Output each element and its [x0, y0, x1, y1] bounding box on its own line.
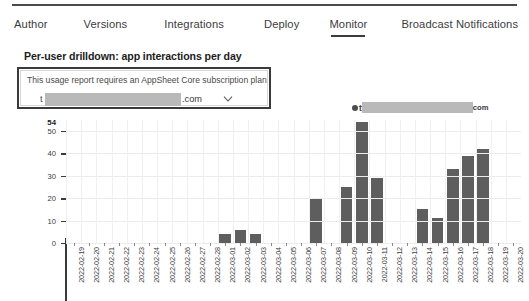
subscription-notice-text: This usage report requires an AppSheet C… [27, 75, 267, 85]
tab-label: Deploy [264, 18, 299, 30]
chart-bar[interactable] [250, 234, 262, 243]
x-gridline [400, 120, 401, 243]
legend-label-suffix: com [473, 103, 489, 112]
chart-bar[interactable] [219, 234, 231, 243]
tab-label: Author [14, 18, 48, 30]
x-tick-mark [498, 243, 499, 246]
chart-bar[interactable] [417, 209, 429, 243]
x-tick-label: 2022-03-14 [425, 247, 434, 283]
x-tick-mark [483, 243, 484, 246]
x-gridline [127, 120, 128, 243]
x-tick-label: 2022-03-02 [243, 247, 252, 283]
x-gridline [309, 120, 310, 243]
x-tick-mark [453, 243, 454, 246]
notice-inner-frame: This usage report requires an AppSheet C… [20, 70, 268, 106]
x-tick-label: 2022-03-10 [365, 247, 374, 283]
x-tick-mark [119, 243, 120, 246]
x-tick-mark [362, 243, 363, 246]
y-tick-label: 20 [10, 194, 56, 203]
x-tick-label: 2022-03-15 [441, 247, 450, 283]
x-tick-mark [513, 243, 514, 246]
x-gridline [324, 120, 325, 243]
x-tick-label: 2022-02-24 [152, 247, 161, 283]
x-tick-label: 2022-03-18 [486, 247, 495, 283]
chart-bar[interactable] [235, 230, 247, 243]
x-gridline [233, 120, 234, 243]
x-tick-mark [240, 243, 241, 246]
x-tick-mark [149, 243, 150, 246]
x-tick-mark [104, 243, 105, 246]
x-gridline [354, 120, 355, 243]
user-email-prefix: t [40, 94, 43, 104]
x-tick-label: 2022-02-27 [198, 247, 207, 283]
x-tick-mark [347, 243, 348, 246]
chart-bar[interactable] [447, 169, 459, 243]
chart-bar[interactable] [432, 218, 444, 243]
x-tick-mark [210, 243, 211, 246]
main-tab-bar: AuthorVersionsIntegrationsDeployMonitorB… [14, 18, 514, 44]
x-gridline [491, 120, 492, 243]
x-tick-mark [180, 243, 181, 246]
y-axis-line [65, 238, 67, 301]
header-divider [12, 4, 517, 6]
user-email-suffix: .com [182, 94, 202, 104]
chart-bar[interactable] [371, 178, 383, 243]
chart-bar[interactable] [341, 187, 353, 243]
x-tick-mark [468, 243, 469, 246]
x-tick-label: 2022-02-22 [122, 247, 131, 283]
x-tick-label: 2022-03-05 [289, 247, 298, 283]
tab-versions[interactable]: Versions [84, 18, 128, 37]
y-tick-label: 0 [10, 239, 56, 248]
x-tick-label: 2022-03-08 [334, 247, 343, 283]
x-tick-label: 2022-02-21 [107, 247, 116, 283]
x-tick-mark [422, 243, 423, 246]
tab-label: Versions [84, 18, 128, 30]
x-tick-mark [195, 243, 196, 246]
x-tick-label: 2022-03-01 [228, 247, 237, 283]
tab-broadcast-notifications[interactable]: Broadcast Notifications [401, 18, 518, 37]
x-gridline [430, 120, 431, 243]
x-gridline [506, 120, 507, 243]
x-tick-mark [316, 243, 317, 246]
chart-bar[interactable] [356, 122, 368, 243]
chart-bar[interactable] [477, 149, 489, 243]
x-gridline [142, 120, 143, 243]
y-max-label: 54 [10, 117, 56, 126]
x-tick-mark [438, 243, 439, 246]
user-select-dropdown[interactable]: t .com [27, 91, 261, 109]
page-title: Per-user drilldown: app interactions per… [24, 50, 242, 62]
x-tick-label: 2022-03-13 [410, 247, 419, 283]
x-gridline [187, 120, 188, 243]
legend-label-redacted [362, 102, 473, 113]
x-gridline [81, 120, 82, 243]
x-gridline [415, 120, 416, 243]
chart-bar[interactable] [462, 156, 474, 243]
x-tick-label: 2022-03-16 [456, 247, 465, 283]
x-tick-label: 2022-03-19 [501, 247, 510, 283]
x-tick-mark [331, 243, 332, 246]
x-gridline [278, 120, 279, 243]
y-tick-label: 30 [10, 171, 56, 180]
x-gridline [369, 120, 370, 243]
x-tick-label: 2022-03-17 [471, 247, 480, 283]
x-tick-mark [134, 243, 135, 246]
x-tick-label: 2022-03-03 [259, 247, 268, 283]
x-tick-mark [165, 243, 166, 246]
tab-integrations[interactable]: Integrations [164, 18, 224, 37]
interactions-bar-chart: 01020304050542022-02-192022-02-202022-02… [0, 118, 529, 301]
x-tick-label: 2022-02-19 [77, 247, 86, 283]
x-gridline [157, 120, 158, 243]
tab-deploy[interactable]: Deploy [264, 18, 299, 37]
tab-author[interactable]: Author [14, 18, 48, 37]
x-gridline [66, 120, 67, 243]
x-tick-label: 2022-03-20 [516, 247, 525, 283]
chevron-down-icon[interactable] [223, 95, 233, 103]
x-tick-label: 2022-02-25 [168, 247, 177, 283]
x-gridline [218, 120, 219, 243]
x-gridline [263, 120, 264, 243]
y-tick-label: 40 [10, 149, 56, 158]
x-tick-mark [256, 243, 257, 246]
x-gridline [112, 120, 113, 243]
x-tick-label: 2022-02-23 [137, 247, 146, 283]
tab-monitor[interactable]: Monitor [329, 18, 367, 37]
